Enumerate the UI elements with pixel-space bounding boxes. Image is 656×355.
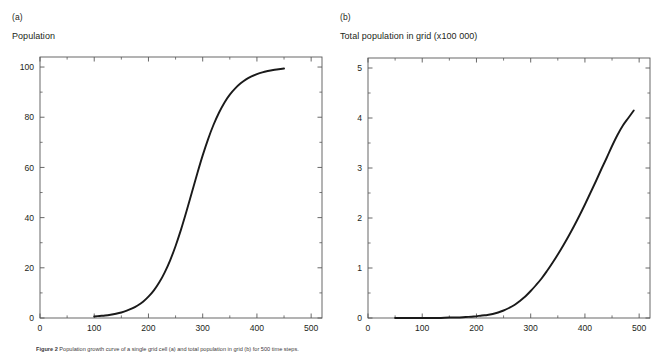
x-tick-label: 500 [304,323,319,333]
x-tick-label: 400 [250,323,265,333]
y-tick-label: 0 [357,313,362,323]
y-tick-label: 3 [357,163,362,173]
panel-a-plot: 0100200300400500020406080100 [0,0,328,340]
data-series-line [395,111,634,319]
x-tick-label: 200 [469,323,484,333]
figure-caption-text: Population growth curve of a single grid… [59,346,298,352]
x-tick-label: 400 [578,323,593,333]
y-tick-label: 4 [357,113,362,123]
figure-caption: Figure 2 Population growth curve of a si… [36,346,636,354]
x-tick-label: 200 [141,323,156,333]
y-tick-label: 80 [24,112,34,122]
x-tick-label: 300 [196,323,211,333]
y-tick-label: 100 [20,62,35,72]
y-tick-label: 5 [357,63,362,73]
y-tick-label: 2 [357,213,362,223]
panel-b: (b) Total population in grid (x100 000) … [328,0,656,340]
data-series-line [94,69,284,317]
x-tick-label: 100 [87,323,102,333]
x-tick-label: 0 [38,323,43,333]
x-tick-label: 0 [366,323,371,333]
figure-root: (a) Population 0100200300400500020406080… [0,0,656,355]
panel-b-plot: 0100200300400500012345 [328,0,656,340]
x-tick-label: 300 [524,323,539,333]
figure-caption-label: Figure 2 [36,346,58,352]
y-tick-label: 40 [24,213,34,223]
y-tick-label: 0 [29,313,34,323]
y-tick-label: 60 [24,163,34,173]
x-tick-label: 500 [632,323,647,333]
x-tick-label: 100 [415,323,430,333]
y-tick-label: 1 [357,263,362,273]
y-tick-label: 20 [24,263,34,273]
figure-caption-wrap: Figure 2 Population growth curve of a si… [0,346,656,355]
panel-a: (a) Population 0100200300400500020406080… [0,0,328,340]
